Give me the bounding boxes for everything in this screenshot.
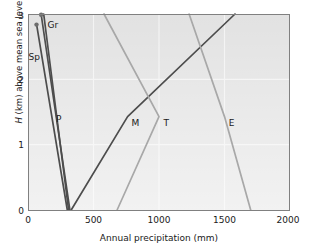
y-axis-title-rest: (km) above mean sea level: [14, 0, 24, 117]
series-label-P: P: [56, 114, 62, 124]
precipitation-elevation-chart: 0 1 2 3 0 500 1000 1500 2000 Gr Sp P M T…: [0, 0, 311, 249]
x-tick-2000: 2000: [277, 215, 300, 225]
x-tick-1500: 1500: [213, 215, 236, 225]
panel-shading: [28, 14, 290, 210]
series-marker-Sp: [34, 22, 38, 26]
y-axis-title-symbol: H: [14, 117, 24, 123]
series-label-Gr: Gr: [48, 20, 59, 30]
series-label-Sp: Sp: [29, 52, 41, 62]
x-axis-title: Annual precipitation (mm): [100, 233, 218, 243]
series-label-M: M: [132, 118, 140, 128]
series-label-T: T: [162, 118, 169, 128]
x-tick-1000: 1000: [148, 215, 171, 225]
y-tick-1: 1: [18, 140, 24, 150]
y-axis-title: H (km) above mean sea level: [14, 0, 24, 136]
chart-figure: 0 1 2 3 0 500 1000 1500 2000 Gr Sp P M T…: [0, 0, 311, 249]
series-label-E: E: [229, 118, 235, 128]
y-tick-0: 0: [18, 206, 24, 216]
x-tick-500: 500: [85, 215, 102, 225]
x-tick-0: 0: [25, 215, 31, 225]
x-tick-labels: 0 500 1000 1500 2000: [25, 215, 300, 225]
